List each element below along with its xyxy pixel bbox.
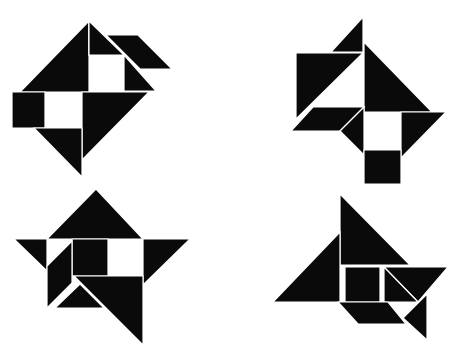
tangram-piece-square bbox=[12, 92, 45, 128]
tangram-piece-square bbox=[72, 239, 108, 276]
tangram-canvas bbox=[0, 0, 463, 355]
tangram-piece-square bbox=[345, 267, 380, 302]
tangram-piece-square bbox=[364, 150, 401, 184]
